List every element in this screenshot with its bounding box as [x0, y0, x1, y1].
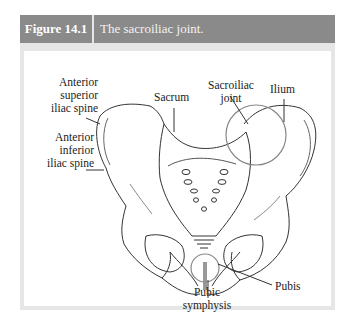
label-line: joint [203, 92, 259, 105]
label-sacroiliac-joint: Sacroiliac joint [203, 79, 259, 105]
label-line: Anterior [34, 131, 94, 144]
label-line: inferior [34, 144, 94, 157]
label-line: Anterior [38, 76, 98, 89]
label-line: iliac spine [38, 102, 98, 115]
label-sacrum: Sacrum [154, 91, 189, 104]
label-ilium: Ilium [270, 83, 295, 96]
label-anterior-superior-iliac-spine: Anterior superior iliac spine [38, 76, 98, 115]
label-line: Pubic [177, 286, 237, 299]
label-pubis: Pubis [275, 280, 301, 293]
label-line: Sacroiliac [203, 79, 259, 92]
label-line: symphysis [177, 299, 237, 312]
label-pubic-symphysis: Pubic symphysis [177, 286, 237, 312]
label-anterior-inferior-iliac-spine: Anterior inferior iliac spine [34, 131, 94, 170]
label-line: iliac spine [34, 157, 94, 170]
label-line: superior [38, 89, 98, 102]
